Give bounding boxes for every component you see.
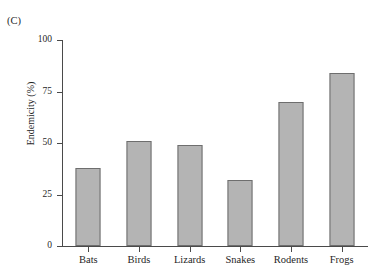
y-tick-mark <box>57 195 62 196</box>
x-tick-mark <box>139 247 140 252</box>
x-tick-label-frogs: Frogs <box>307 255 377 266</box>
y-tick-label: 100 <box>18 35 52 45</box>
bar-slot <box>114 40 165 246</box>
y-tick-label: 25 <box>18 190 52 200</box>
x-tick-mark <box>88 247 89 252</box>
y-tick-label: 0 <box>18 241 52 251</box>
y-tick-mark <box>57 92 62 93</box>
figure-title: Endemism index <box>0 0 383 1</box>
bar-series <box>63 40 367 246</box>
bar-bats[interactable] <box>76 168 101 246</box>
y-tick-mark <box>57 40 62 41</box>
bar-snakes[interactable] <box>228 180 253 246</box>
y-tick-label: 75 <box>18 87 52 97</box>
x-tick-mark <box>342 247 343 252</box>
bar-birds[interactable] <box>126 141 151 246</box>
bar-rodents[interactable] <box>278 102 303 246</box>
bar-frogs[interactable] <box>329 73 354 246</box>
panel-label: (C) <box>7 15 21 26</box>
bar-lizards[interactable] <box>177 145 202 246</box>
bar-slot <box>164 40 215 246</box>
x-tick-mark <box>291 247 292 252</box>
y-tick-label: 50 <box>18 138 52 148</box>
y-tick-mark <box>57 246 62 247</box>
y-axis-title: Endemicity (%) <box>25 24 36 204</box>
bar-slot <box>316 40 367 246</box>
x-tick-mark <box>190 247 191 252</box>
y-tick-mark <box>57 143 62 144</box>
x-tick-mark <box>240 247 241 252</box>
x-axis-line <box>62 246 368 247</box>
bar-slot <box>266 40 317 246</box>
bar-slot <box>215 40 266 246</box>
bar-slot <box>63 40 114 246</box>
